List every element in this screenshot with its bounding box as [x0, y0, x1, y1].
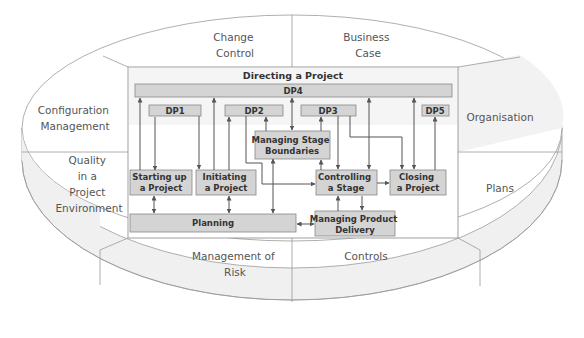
prince2-process-diagram: Change Control Business Case Organisatio…: [0, 0, 584, 338]
svg-text:DP2: DP2: [244, 106, 263, 116]
label-organisation: Organisation: [466, 111, 533, 123]
svg-text:Initiating a Project: Initiating a Project: [203, 172, 250, 193]
svg-text:Starting up a Project: Starting up a Project: [132, 172, 189, 193]
svg-text:DP1: DP1: [165, 106, 184, 116]
directing-title: Directing a Project: [243, 70, 344, 81]
svg-text:Planning: Planning: [192, 218, 234, 228]
svg-text:DP3: DP3: [318, 106, 337, 116]
label-plans: Plans: [486, 182, 514, 194]
svg-text:DP4: DP4: [283, 86, 302, 96]
label-controls: Controls: [344, 250, 387, 262]
svg-text:Closing a Project: Closing a Project: [397, 172, 440, 193]
svg-text:DP5: DP5: [425, 106, 444, 116]
